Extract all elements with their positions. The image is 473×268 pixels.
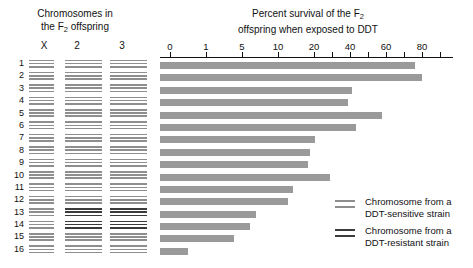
chromosome-column-headers: X23	[28, 40, 144, 54]
bar-row	[150, 134, 473, 146]
survival-bar	[160, 149, 310, 156]
chromosome-cell-x	[29, 121, 54, 129]
chromosome-column-header-x: X	[28, 40, 60, 51]
survival-bar	[160, 62, 415, 69]
chromosome-cell-x	[29, 134, 54, 142]
chromosome-row: 7	[0, 132, 150, 144]
chromosome-cell-x	[29, 84, 54, 92]
chromosome-cell-2	[65, 84, 102, 92]
chromosome-row-number: 14	[2, 219, 24, 230]
survival-bar	[160, 124, 356, 131]
chromosome-cell-x	[29, 72, 54, 80]
bar-row	[150, 60, 473, 72]
chromosome-cell-2	[65, 146, 102, 154]
survival-bar	[160, 99, 348, 106]
x-axis-tick	[206, 52, 207, 57]
chromosome-cell-2	[65, 171, 102, 179]
chromosome-row-number: 15	[2, 231, 24, 242]
chromosome-row: 2	[0, 70, 150, 82]
survival-bar	[160, 211, 256, 218]
chromosome-cell-x	[29, 208, 54, 216]
chromosome-row: 14	[0, 219, 150, 231]
chromosome-row: 13	[0, 207, 150, 219]
chromosome-row: 16	[0, 244, 150, 256]
chromosome-cell-2	[65, 233, 102, 241]
chromosome-panel-title: Chromosomes in the F2 offspring	[0, 8, 150, 36]
chromosome-row-number: 16	[2, 244, 24, 255]
x-axis-tick-label: 10	[273, 41, 284, 52]
x-axis-tick	[242, 52, 243, 57]
chromosome-cell-x	[29, 60, 54, 68]
chromosome-row: 11	[0, 182, 150, 194]
chromosome-cell-3	[110, 72, 147, 80]
bar-row	[150, 72, 473, 84]
chromosome-cell-3	[110, 121, 147, 129]
chromosome-row-number: 7	[2, 132, 24, 143]
chromosome-cell-x	[29, 159, 54, 167]
chart-title-line1: Percent survival of the F2	[252, 8, 364, 19]
chromosome-row-number: 11	[2, 182, 24, 193]
chromosome-cell-2	[65, 196, 102, 204]
chromosome-cell-x	[29, 146, 54, 154]
chromosome-cell-3	[110, 159, 147, 167]
x-axis-tick-label: 80	[417, 41, 428, 52]
x-axis-tick	[422, 52, 423, 57]
chromosome-cell-x	[29, 109, 54, 117]
chart-title-line2: offspring when exposed to DDT	[238, 24, 378, 35]
x-axis-tick-label: 5	[239, 41, 244, 52]
chromosome-column-header-3: 3	[106, 40, 138, 51]
chromosome-cell-2	[65, 121, 102, 129]
x-axis-minor-tick	[332, 52, 333, 57]
survival-bar	[160, 174, 330, 181]
chromosome-row-number: 3	[2, 83, 24, 94]
bar-row	[150, 159, 473, 171]
x-axis: 0151020406080	[150, 44, 473, 60]
chromosome-column-header-2: 2	[61, 40, 93, 51]
chart-title: Percent survival of the F2 offspring whe…	[158, 8, 458, 36]
chromosome-cell-3	[110, 60, 147, 68]
chromosome-cell-3	[110, 97, 147, 105]
chromosome-cell-2	[65, 97, 102, 105]
survival-bar	[160, 112, 382, 119]
chromosome-row: 12	[0, 194, 150, 206]
chromosome-cell-3	[110, 233, 147, 241]
chromosome-cell-x	[29, 221, 54, 229]
chromosome-row: 4	[0, 95, 150, 107]
chromosome-row-number: 2	[2, 70, 24, 81]
bar-row	[150, 97, 473, 109]
chromosome-row-number: 4	[2, 95, 24, 106]
legend-swatch-resistant	[335, 229, 355, 237]
x-axis-tick-label: 1	[203, 41, 208, 52]
x-axis-tick	[386, 52, 387, 57]
bar-row	[150, 110, 473, 122]
chromosome-rows: 12345678910111213141516	[0, 58, 150, 256]
bar-row	[150, 147, 473, 159]
chromosome-cell-2	[65, 72, 102, 80]
chromosome-title-line1: Chromosomes in	[37, 8, 113, 19]
chromosome-cell-x	[29, 233, 54, 241]
survival-bar	[160, 235, 234, 242]
chromosome-cell-2	[65, 134, 102, 142]
chromosome-cell-3	[110, 208, 147, 216]
survival-bar	[160, 223, 250, 230]
chromosome-row: 15	[0, 231, 150, 243]
legend-item-resistant: Chromosome from aDDT-resistant strain	[335, 225, 473, 248]
x-axis-tick	[170, 52, 171, 57]
x-axis-tick-label: 20	[309, 41, 320, 52]
survival-bar	[160, 198, 288, 205]
chromosome-row: 1	[0, 58, 150, 70]
legend-label-sensitive: Chromosome from aDDT-sensitive strain	[365, 196, 473, 219]
legend-item-sensitive: Chromosome from aDDT-sensitive strain	[335, 196, 473, 219]
chromosome-row-number: 6	[2, 120, 24, 131]
chromosome-cell-x	[29, 183, 54, 191]
survival-bar	[160, 161, 308, 168]
chromosome-row-number: 9	[2, 157, 24, 168]
chromosome-row: 5	[0, 108, 150, 120]
x-axis-minor-tick	[404, 52, 405, 57]
survival-bar	[160, 248, 188, 255]
chromosome-cell-3	[110, 134, 147, 142]
survival-bar	[160, 136, 315, 143]
bar-row	[150, 85, 473, 97]
chromosome-row: 6	[0, 120, 150, 132]
x-axis-tick	[314, 52, 315, 57]
